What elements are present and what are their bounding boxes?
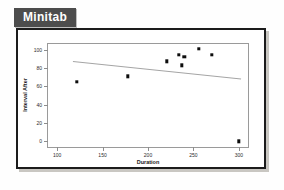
scatter-point bbox=[237, 140, 240, 143]
scatter-point bbox=[183, 55, 186, 58]
scatter-point bbox=[177, 53, 180, 56]
scatter-point bbox=[165, 60, 168, 63]
y-axis-tick-label: 40 bbox=[36, 102, 42, 108]
x-axis-tick bbox=[103, 147, 104, 151]
scatter-point bbox=[180, 63, 183, 66]
y-axis-tick-label: 0 bbox=[39, 138, 42, 144]
chart-frame: Interval After 0204060801001001502002503… bbox=[16, 28, 266, 169]
y-axis-tick bbox=[44, 50, 48, 51]
x-axis-tick-label: 200 bbox=[144, 152, 152, 158]
plot-wrapper: Interval After 0204060801001001502002503… bbox=[21, 33, 261, 164]
minitab-figure-page: Minitab Interval After 02040608010010015… bbox=[0, 0, 284, 190]
x-axis-tick bbox=[239, 147, 240, 151]
chart-frame-inner: Interval After 0204060801001001502002503… bbox=[20, 32, 262, 165]
y-axis-label: Interval After bbox=[22, 78, 28, 112]
x-axis-tick-label: 100 bbox=[53, 152, 61, 158]
y-axis-tick-label: 80 bbox=[36, 65, 42, 71]
y-axis-tick-label: 20 bbox=[36, 120, 42, 126]
x-axis-tick bbox=[57, 147, 58, 151]
y-axis-tick-label: 60 bbox=[36, 83, 42, 89]
y-axis-tick bbox=[44, 86, 48, 87]
x-axis-tick bbox=[148, 147, 149, 151]
y-axis-tick bbox=[44, 68, 48, 69]
y-axis-tick bbox=[44, 141, 48, 142]
y-axis-tick-label: 100 bbox=[34, 47, 42, 53]
x-axis-tick-label: 150 bbox=[98, 152, 106, 158]
regression-line bbox=[72, 61, 240, 79]
scatter-point bbox=[75, 80, 78, 83]
x-axis-tick-label: 250 bbox=[189, 152, 197, 158]
scatter-plot-area: 020406080100100150200250300 bbox=[47, 43, 249, 148]
x-axis-tick-label: 300 bbox=[235, 152, 243, 158]
scatter-point bbox=[197, 47, 200, 50]
y-axis-tick bbox=[44, 105, 48, 106]
x-axis-label: Duration bbox=[47, 159, 249, 165]
minitab-title-badge: Minitab bbox=[14, 8, 76, 27]
scatter-point bbox=[210, 53, 213, 56]
y-axis-tick bbox=[44, 123, 48, 124]
x-axis-tick bbox=[193, 147, 194, 151]
scatter-point bbox=[126, 74, 129, 77]
